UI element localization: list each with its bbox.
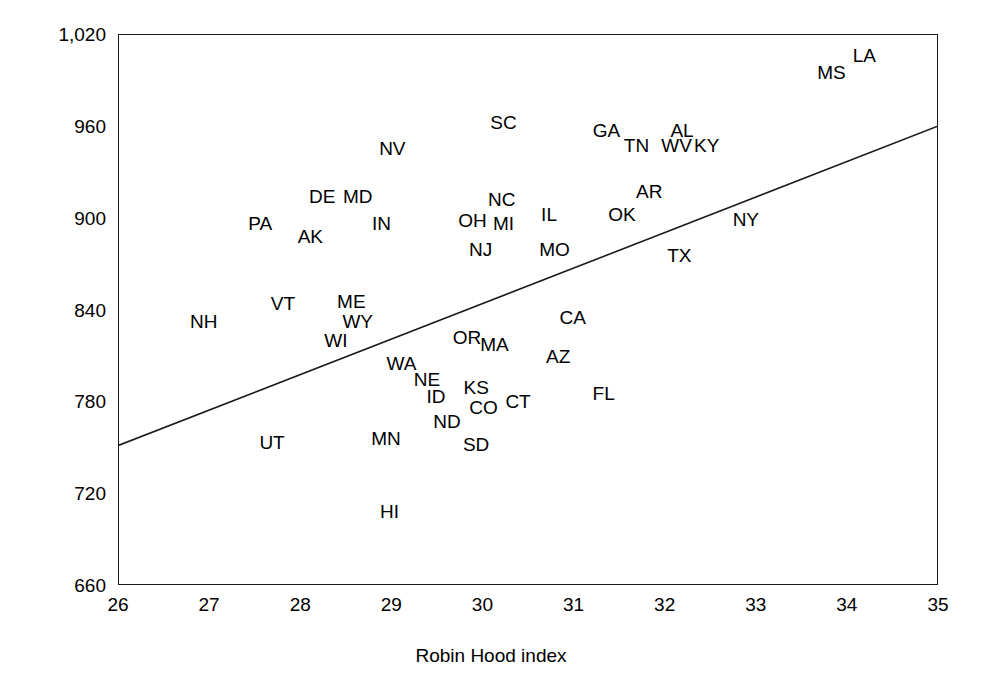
data-point-label: NY bbox=[733, 209, 759, 228]
data-point-label: WI bbox=[324, 330, 347, 349]
y-axis-tick-label: 960 bbox=[74, 116, 106, 135]
x-axis-tick-label: 28 bbox=[290, 595, 311, 614]
y-axis-tick-label: 900 bbox=[74, 208, 106, 227]
data-point-label: WA bbox=[386, 353, 416, 372]
data-point-label: MN bbox=[371, 428, 401, 447]
x-axis-tick-label: 29 bbox=[381, 595, 402, 614]
data-point-label: LA bbox=[853, 45, 876, 64]
data-point-label: SC bbox=[490, 113, 516, 132]
x-axis-tick-label: 26 bbox=[107, 595, 128, 614]
data-point-label: UT bbox=[259, 433, 284, 452]
data-point-label: MI bbox=[493, 214, 514, 233]
y-axis-tick-label: 660 bbox=[74, 576, 106, 595]
x-axis-title: Robin Hood index bbox=[0, 645, 982, 667]
data-point-label: NC bbox=[488, 189, 515, 208]
data-point-label: AL bbox=[670, 120, 693, 139]
data-point-label: IL bbox=[541, 205, 557, 224]
data-point-label: GA bbox=[593, 120, 620, 139]
data-point-label: DE bbox=[309, 186, 335, 205]
data-point-label: AZ bbox=[546, 347, 570, 366]
x-axis-tick-label: 33 bbox=[745, 595, 766, 614]
y-axis-tick-label: 720 bbox=[74, 484, 106, 503]
x-axis-tick-label: 35 bbox=[927, 595, 948, 614]
data-point-label: ME bbox=[337, 292, 366, 311]
data-point-label: OH bbox=[458, 211, 487, 230]
data-point-label: OR bbox=[453, 327, 482, 346]
data-point-label: CT bbox=[505, 391, 530, 410]
data-point-label: IN bbox=[372, 214, 391, 233]
data-point-label: WY bbox=[342, 312, 373, 331]
data-point-label: AR bbox=[636, 182, 662, 201]
y-axis-tick-label: 780 bbox=[74, 392, 106, 411]
x-axis-tick-label: 34 bbox=[836, 595, 857, 614]
data-point-label: TX bbox=[667, 246, 691, 265]
data-point-label: PA bbox=[248, 214, 272, 233]
data-point-label: KY bbox=[694, 136, 719, 155]
data-point-label: CA bbox=[560, 307, 586, 326]
data-point-label: ID bbox=[427, 387, 446, 406]
data-point-label: AK bbox=[298, 226, 323, 245]
data-point-label: KS bbox=[463, 378, 488, 397]
data-point-label: ND bbox=[433, 411, 460, 430]
x-axis-tick-label: 30 bbox=[472, 595, 493, 614]
data-point-label: CO bbox=[469, 397, 498, 416]
data-point-label: TN bbox=[624, 136, 649, 155]
data-point-label: MO bbox=[539, 240, 570, 259]
y-axis-tick-label: 1,020 bbox=[58, 25, 106, 44]
x-axis-tick-label: 32 bbox=[654, 595, 675, 614]
data-point-label: MS bbox=[817, 62, 846, 81]
data-point-label: HI bbox=[380, 502, 399, 521]
data-point-label: NH bbox=[190, 312, 217, 331]
data-point-label: NV bbox=[379, 139, 405, 158]
x-axis-tick-label: 27 bbox=[199, 595, 220, 614]
data-point-label: OK bbox=[608, 205, 635, 224]
chart-figure: Age-adjusted mortality rate 1,0209609008… bbox=[0, 0, 982, 686]
data-point-label: MD bbox=[343, 186, 373, 205]
data-point-label: FL bbox=[593, 384, 615, 403]
data-point-label: SD bbox=[463, 434, 489, 453]
data-point-label: NJ bbox=[469, 240, 492, 259]
y-axis-tick-label: 840 bbox=[74, 300, 106, 319]
x-axis-tick-label: 31 bbox=[563, 595, 584, 614]
data-point-label: VT bbox=[271, 293, 295, 312]
data-point-label: MA bbox=[480, 335, 509, 354]
data-point-labels: NHPAVTUTAKDEMEWYWIMDINWANEMNIDNDHINVORSD… bbox=[119, 35, 937, 584]
plot-area: NHPAVTUTAKDEMEWYWIMDINWANEMNIDNDHINVORSD… bbox=[118, 34, 938, 585]
